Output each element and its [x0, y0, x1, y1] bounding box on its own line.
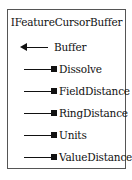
- connector-line: [24, 91, 52, 92]
- member-row-dissolve: Dissolve: [8, 62, 125, 76]
- member-row-ringdistance: RingDistance: [8, 106, 125, 120]
- connector-line: [24, 135, 52, 136]
- member-row-fielddistance: FieldDistance: [8, 84, 125, 98]
- property-square-icon: [51, 88, 57, 94]
- interface-box: IFeatureCursorBuffer Buffer Dissolve Fie…: [7, 9, 126, 169]
- member-label: FieldDistance: [59, 84, 130, 98]
- connector-line: [24, 157, 52, 158]
- member-row-buffer: Buffer: [8, 40, 125, 54]
- member-label: Dissolve: [59, 62, 102, 76]
- connector-line: [24, 113, 52, 114]
- member-label: ValueDistance: [59, 150, 132, 164]
- property-square-icon: [51, 154, 57, 160]
- property-square-icon: [51, 110, 57, 116]
- member-label: Units: [59, 128, 87, 142]
- member-label: RingDistance: [59, 106, 128, 120]
- property-square-icon: [51, 132, 57, 138]
- property-square-icon: [51, 66, 57, 72]
- connector-line: [24, 69, 52, 70]
- connector-line: [26, 47, 48, 48]
- member-row-valuedistance: ValueDistance: [8, 150, 125, 164]
- member-row-units: Units: [8, 128, 125, 142]
- member-label: Buffer: [54, 40, 86, 54]
- interface-title: IFeatureCursorBuffer: [8, 16, 125, 28]
